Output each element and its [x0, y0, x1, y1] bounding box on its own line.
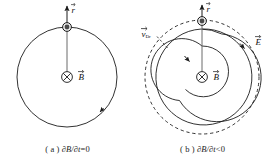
- label-magnetic-field-a-text: B: [79, 72, 85, 82]
- figure-root: r B ( a ) ∂B/∂t=0: [0, 0, 270, 167]
- label-radius-vector-a: r: [71, 6, 76, 15]
- caption-panel-b: ( b ) ∂B/∂t<0: [135, 144, 270, 154]
- label-drift-velocity: vDr: [141, 30, 151, 39]
- label-magnetic-field-b-text: B: [214, 72, 220, 82]
- caption-a-expression: ∂B/∂t: [62, 144, 81, 154]
- caption-b-index: ( b ): [180, 144, 195, 154]
- caption-b-expression: ∂B/∂t: [197, 144, 216, 154]
- panel-a-drawing: [0, 0, 135, 145]
- label-radius-vector-b: r: [206, 5, 211, 14]
- particle-dot-inner-b: [200, 19, 205, 24]
- caption-a-index: ( a ): [45, 144, 59, 154]
- panel-b: r vDr E: [135, 0, 270, 167]
- label-radius-vector-b-text: r: [207, 4, 211, 14]
- label-magnetic-field-a: B: [78, 73, 85, 82]
- label-radius-vector-a-text: r: [72, 5, 76, 15]
- panel-a: r B ( a ) ∂B/∂t=0: [0, 0, 135, 167]
- spiral-direction-arrow: [185, 56, 190, 62]
- particle-dot-inner: [65, 25, 70, 30]
- caption-a-relation: =0: [81, 144, 90, 154]
- label-induced-e-field: E: [255, 38, 262, 47]
- label-magnetic-field-b: B: [213, 73, 220, 82]
- label-induced-e-field-text: E: [256, 37, 262, 47]
- caption-b-relation: <0: [216, 144, 225, 154]
- label-drift-velocity-subscript: Dr: [146, 34, 151, 39]
- panel-b-drawing: [135, 0, 270, 145]
- caption-panel-a: ( a ) ∂B/∂t=0: [0, 144, 135, 154]
